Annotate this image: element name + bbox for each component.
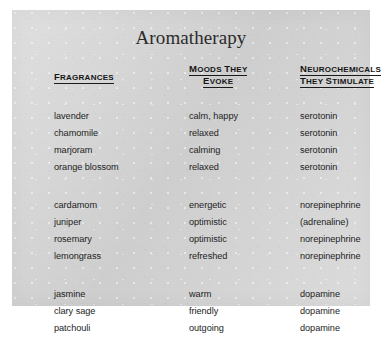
cell-fragrance: lemongrass xyxy=(54,250,182,262)
cell-neurochemical: serotonin xyxy=(300,127,380,139)
cell-mood: relaxed xyxy=(189,161,294,173)
table-row: cardamomenergeticnorepinephrine xyxy=(12,199,370,216)
cell-fragrance: juniper xyxy=(54,216,182,228)
cell-neurochemical: dopamine xyxy=(300,305,380,317)
cell-fragrance: clary sage xyxy=(54,305,182,317)
cell-neurochemical: serotonin xyxy=(300,161,380,173)
table-row: clary sagefriendlydopamine xyxy=(12,305,370,322)
table-row: patchoulioutgoingdopamine xyxy=(12,322,370,337)
cell-fragrance: rosemary xyxy=(54,233,182,245)
cell-fragrance: patchouli xyxy=(54,322,182,334)
table-row: lavendercalm, happyserotonin xyxy=(12,110,370,127)
cell-neurochemical: norepinephrine xyxy=(300,233,380,245)
table-row: juniperoptimistic(adrenaline) xyxy=(12,216,370,233)
cell-fragrance: jasmine xyxy=(54,288,182,300)
cell-neurochemical: norepinephrine xyxy=(300,250,380,262)
cell-mood: refreshed xyxy=(189,250,294,262)
table-row: lemongrassrefreshednorepinephrine xyxy=(12,250,370,267)
table-row: chamomilerelaxedserotonin xyxy=(12,127,370,144)
cell-mood: warm xyxy=(189,288,294,300)
cell-fragrance: orange blossom xyxy=(54,161,182,173)
table-row: rosemaryoptimisticnorepinephrine xyxy=(12,233,370,250)
cell-mood: calm, happy xyxy=(189,110,294,122)
cell-fragrance: cardamom xyxy=(54,199,182,211)
cell-mood: relaxed xyxy=(189,127,294,139)
cell-fragrance: lavender xyxy=(54,110,182,122)
cell-mood: calming xyxy=(189,144,294,156)
cell-neurochemical: (adrenaline) xyxy=(300,216,380,228)
cell-mood: friendly xyxy=(189,305,294,317)
cell-mood: optimistic xyxy=(189,216,294,228)
cell-fragrance: chamomile xyxy=(54,127,182,139)
cell-neurochemical: serotonin xyxy=(300,144,380,156)
cell-fragrance: marjoram xyxy=(54,144,182,156)
document-page: Aromatherapy FFragrancesRAGRANCES MOODS … xyxy=(12,10,370,306)
cell-neurochemical: norepinephrine xyxy=(300,199,380,211)
cell-neurochemical: dopamine xyxy=(300,322,380,334)
table-row: jasminewarmdopamine xyxy=(12,288,370,305)
cell-mood: outgoing xyxy=(189,322,294,334)
table-row: marjoramcalmingserotonin xyxy=(12,144,370,161)
cell-mood: energetic xyxy=(189,199,294,211)
aromatherapy-table: lavendercalm, happyserotoninchamomilerel… xyxy=(12,10,370,306)
cell-mood: optimistic xyxy=(189,233,294,245)
cell-neurochemical: serotonin xyxy=(300,110,380,122)
cell-neurochemical: dopamine xyxy=(300,288,380,300)
table-row: orange blossomrelaxedserotonin xyxy=(12,161,370,178)
